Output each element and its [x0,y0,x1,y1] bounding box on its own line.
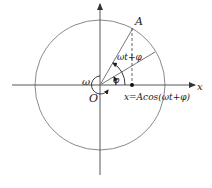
projection-point [130,83,134,87]
label-projection: x=Acos(ωt+φ) [124,92,191,102]
label-origin: O [89,92,98,105]
label-omega: ω [82,76,90,87]
label-initial-phase: φ [113,75,120,85]
label-point-a: A [134,15,143,28]
phasor-diagram: A ωt+φ φ ω O x x=Acos(ωt+φ) [0,0,212,188]
label-x-axis: x [197,81,203,92]
label-phase-total: ωt+φ [117,52,142,62]
